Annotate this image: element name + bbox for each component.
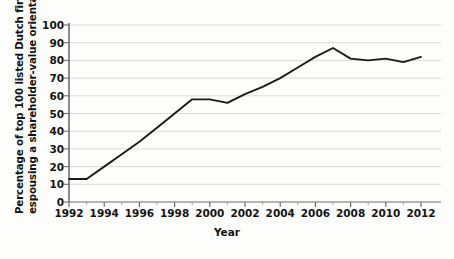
x-tick-label: 1994 [90,207,119,219]
x-axis-label: Year [0,226,454,238]
x-tick-label: 1996 [125,207,154,219]
x-tick-label: 2012 [406,207,435,219]
plot-area [0,0,454,259]
x-tick-label: 1998 [160,207,189,219]
x-tick-label: 1992 [54,207,83,219]
x-tick-label: 2002 [230,207,259,219]
gridlines [69,25,441,184]
chart-figure: Percentage of top 100 listed Dutch firms… [0,0,454,259]
x-tick-label: 2000 [195,207,224,219]
x-tick-label: 2010 [371,207,400,219]
x-tick-label: 2006 [301,207,330,219]
x-tick-label: 2004 [266,207,295,219]
x-tick-label: 2008 [336,207,365,219]
